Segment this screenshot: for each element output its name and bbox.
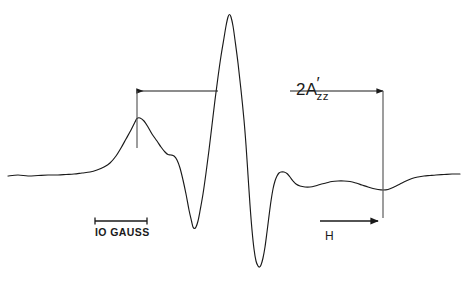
field-axis-label: H [325, 230, 334, 242]
scale-bar-label: IO GAUSS [95, 227, 150, 238]
hyperfine-splitting-label: 2A′zz [296, 74, 333, 102]
spectrum-trace [8, 15, 460, 268]
esr-spectrum-figure: IO GAUSS 2A′zz H [0, 0, 467, 283]
spectrum-plot-svg [0, 0, 467, 283]
splitting-label-main: 2A [296, 80, 317, 99]
splitting-label-subscript: zz [317, 90, 329, 102]
